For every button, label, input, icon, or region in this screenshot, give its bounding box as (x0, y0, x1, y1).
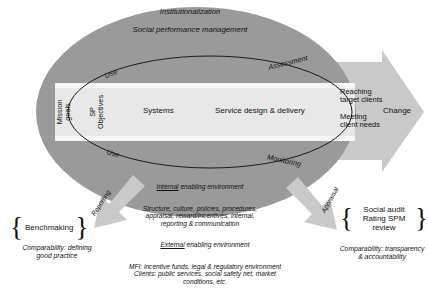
benchmarking-caption: Comparability: defining good practice (22, 244, 91, 259)
label-mission-goals: Mission goals (56, 100, 72, 125)
label-reaching-target-clients: Reaching target clients (340, 88, 383, 105)
label-change: Change (383, 107, 411, 116)
external-body: MFI: incentive funds, legal & regulatory… (129, 263, 281, 285)
social-audit-caption: Comparability: transparency & accountabi… (340, 245, 425, 260)
value-chain-band-highlight (55, 83, 355, 88)
external-heading-underlined: External (160, 241, 184, 248)
brace-right-close: } (415, 205, 428, 232)
benchmarking-bracket: { Benchmaking } (10, 214, 88, 241)
internal-body: Structure, culture, policies, procedures… (143, 205, 257, 227)
external-heading-rest: enabling environment (185, 241, 250, 248)
label-meeting-client-needs: Meeting client needs (340, 113, 380, 130)
label-institutionalization: Institutionalization (160, 8, 220, 17)
value-chain-band-highlight-lower (55, 136, 355, 141)
social-audit-items: Social audit Rating SPM review (353, 205, 415, 232)
label-service-design-delivery: Service design & delivery (215, 107, 305, 116)
label-social-performance-management: Social performance management (133, 26, 248, 35)
internal-heading-underlined: Internal (157, 183, 179, 190)
label-systems: Systems (143, 107, 174, 116)
brace-left-open: { (10, 214, 23, 241)
external-heading: External enabling environment (129, 241, 281, 248)
internal-heading: Internal enabling environment (143, 183, 257, 190)
social-audit-bracket: { Social audit Rating SPM review } (340, 205, 428, 232)
internal-heading-rest: enabling environment (179, 183, 244, 190)
external-enabling-environment: External enabling environment MFI: incen… (129, 226, 281, 289)
label-sp-objectives: SP Objectives (89, 95, 105, 129)
brace-right-open: { (340, 205, 353, 232)
brace-left-close: } (75, 214, 88, 241)
benchmarking-items: Benchmaking (23, 223, 75, 232)
